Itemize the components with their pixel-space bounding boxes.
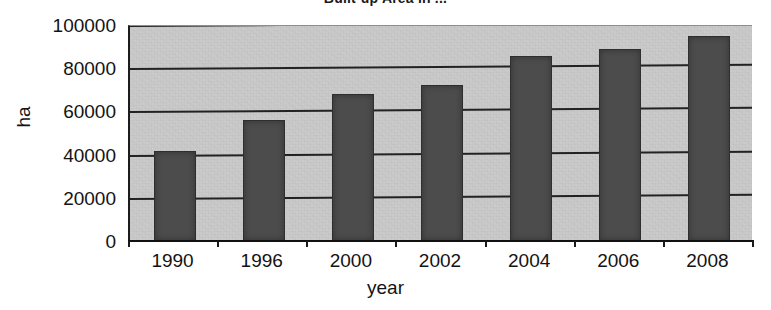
y-tick-label: 100000	[28, 16, 116, 35]
bar	[332, 94, 374, 241]
y-tick-label: 80000	[28, 59, 116, 78]
x-axis-label: year	[0, 277, 771, 299]
x-axis-line	[128, 240, 754, 242]
x-tick-label: 2002	[395, 250, 485, 272]
y-tick-label: 0	[28, 232, 116, 251]
gridline	[130, 64, 752, 70]
bar-chart-figure: Built-up Area in ... ha 0200004000060000…	[0, 0, 771, 310]
x-tick-label: 2004	[484, 250, 574, 272]
x-tick-label: 1996	[217, 250, 307, 272]
x-tick-mark	[217, 241, 219, 247]
bar	[688, 36, 730, 241]
x-tick-mark	[395, 241, 397, 247]
y-tick-label: 60000	[28, 102, 116, 121]
x-tick-mark	[306, 241, 308, 247]
bar	[154, 151, 196, 241]
x-tick-mark	[485, 241, 487, 247]
x-tick-mark	[574, 241, 576, 247]
bar	[599, 49, 641, 241]
x-tick-mark	[128, 241, 130, 247]
x-tick-label: 2000	[306, 250, 396, 272]
x-tick-mark	[752, 241, 754, 247]
y-tick-label: 20000	[28, 189, 116, 208]
gridline	[130, 25, 752, 27]
plot-area	[128, 25, 752, 241]
bar	[243, 120, 285, 241]
y-axis-tick-labels: 020000400006000080000100000	[28, 25, 122, 241]
x-tick-label: 2006	[573, 250, 663, 272]
x-tick-mark	[663, 241, 665, 247]
x-tick-label: 2008	[662, 250, 752, 272]
chart-title: Built-up Area in ...	[0, 0, 771, 6]
bar	[510, 56, 552, 241]
chart-title-clip: Built-up Area in ...	[0, 0, 771, 7]
bar	[421, 85, 463, 241]
x-tick-label: 1990	[128, 250, 218, 272]
y-tick-label: 40000	[28, 146, 116, 165]
